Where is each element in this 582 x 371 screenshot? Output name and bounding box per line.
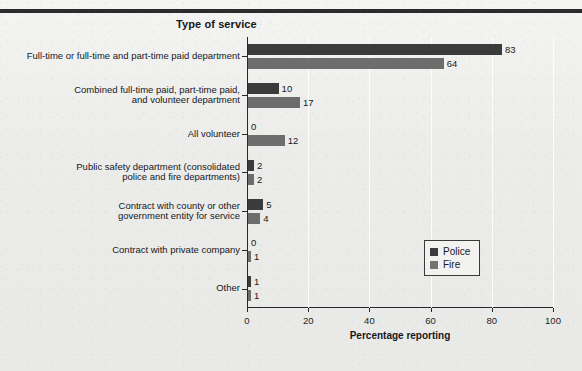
category-label: Public safety department (consolidated p… bbox=[8, 162, 240, 183]
category-tick bbox=[242, 134, 247, 135]
bar-value-label: 4 bbox=[263, 213, 268, 224]
chart-legend: PoliceFire bbox=[424, 240, 480, 276]
bar-fire bbox=[248, 251, 251, 262]
category-tick bbox=[242, 250, 247, 251]
bar-value-label: 1 bbox=[254, 290, 259, 301]
category-group: All volunteer012 bbox=[247, 114, 553, 153]
bar-police bbox=[248, 276, 251, 287]
legend-swatch-police bbox=[430, 248, 438, 256]
category-group: Contract with county or other government… bbox=[247, 192, 553, 231]
bar-value-label: 2 bbox=[257, 174, 262, 185]
plot-area: 020406080100 Full-time or full-time and … bbox=[247, 37, 553, 308]
category-group: Other11 bbox=[247, 269, 553, 308]
category-label: Other bbox=[8, 283, 240, 294]
category-tick bbox=[242, 95, 247, 96]
x-tick-80 bbox=[492, 308, 493, 312]
category-tick bbox=[242, 289, 247, 290]
bar-police bbox=[248, 83, 279, 94]
figure-page: Type of service 020406080100 Full-time o… bbox=[0, 0, 582, 371]
x-tick-label-40: 40 bbox=[364, 315, 375, 326]
bar-value-label: 64 bbox=[447, 58, 458, 69]
legend-entry-police: Police bbox=[430, 245, 470, 258]
legend-label-police: Police bbox=[443, 246, 470, 257]
bar-fire bbox=[248, 174, 254, 185]
bar-police bbox=[248, 160, 254, 171]
bar-police bbox=[248, 44, 502, 55]
bar-value-label: 1 bbox=[254, 251, 259, 262]
x-tick-label-60: 60 bbox=[425, 315, 436, 326]
legend-swatch-fire bbox=[430, 261, 438, 269]
category-label: Full-time or full-time and part-time pai… bbox=[8, 51, 240, 62]
x-tick-label-80: 80 bbox=[487, 315, 498, 326]
x-tick-label-100: 100 bbox=[545, 315, 561, 326]
category-group: Full-time or full-time and part-time pai… bbox=[247, 37, 553, 76]
x-tick-60 bbox=[431, 308, 432, 312]
category-label: Combined full-time paid, part-time paid,… bbox=[8, 85, 240, 106]
category-tick bbox=[242, 172, 247, 173]
bar-value-label: 10 bbox=[282, 83, 293, 94]
bar-fire bbox=[248, 58, 444, 69]
bar-fire bbox=[248, 290, 251, 301]
x-tick-0 bbox=[247, 308, 248, 312]
bar-fire bbox=[248, 97, 300, 108]
category-group: Contract with private company01 bbox=[247, 231, 553, 270]
category-group: Public safety department (consolidated p… bbox=[247, 153, 553, 192]
bar-fire bbox=[248, 213, 260, 224]
legend-entry-fire: Fire bbox=[430, 258, 470, 271]
x-tick-label-20: 20 bbox=[303, 315, 314, 326]
bar-value-label: 5 bbox=[266, 199, 271, 210]
bar-police bbox=[248, 199, 263, 210]
top-divider-rule bbox=[0, 9, 582, 13]
category-tick bbox=[242, 211, 247, 212]
x-tick-label-0: 0 bbox=[244, 315, 249, 326]
bar-value-label: 12 bbox=[288, 135, 299, 146]
bar-value-label: 17 bbox=[303, 97, 314, 108]
x-tick-40 bbox=[369, 308, 370, 312]
bar-value-label: 83 bbox=[505, 44, 516, 55]
category-label: Contract with private company bbox=[8, 245, 240, 256]
x-tick-100 bbox=[553, 308, 554, 312]
chart-title: Type of service bbox=[176, 18, 257, 30]
bar-value-label: 1 bbox=[254, 276, 259, 287]
category-label: All volunteer bbox=[8, 129, 240, 140]
category-group: Combined full-time paid, part-time paid,… bbox=[247, 76, 553, 115]
bar-fire bbox=[248, 135, 285, 146]
bar-value-label: 0 bbox=[251, 237, 256, 248]
bar-value-label: 0 bbox=[251, 121, 256, 132]
category-label: Contract with county or other government… bbox=[8, 201, 240, 222]
x-axis-label: Percentage reporting bbox=[247, 330, 553, 341]
bar-value-label: 2 bbox=[257, 160, 262, 171]
category-tick bbox=[242, 56, 247, 57]
gridline-100 bbox=[553, 37, 554, 308]
x-tick-20 bbox=[308, 308, 309, 312]
legend-label-fire: Fire bbox=[443, 259, 460, 270]
